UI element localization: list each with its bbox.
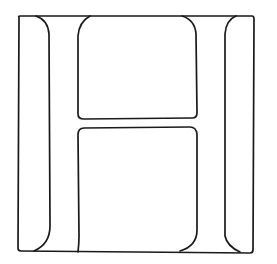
- upper-counter: [78, 16, 197, 119]
- right-stem-edge: [225, 16, 240, 252]
- left-stem-edge: [34, 16, 50, 251]
- lower-counter: [78, 127, 197, 252]
- outer-frame: [18, 16, 254, 253]
- letter-h-drawing: [0, 0, 277, 264]
- line-art: [18, 16, 254, 253]
